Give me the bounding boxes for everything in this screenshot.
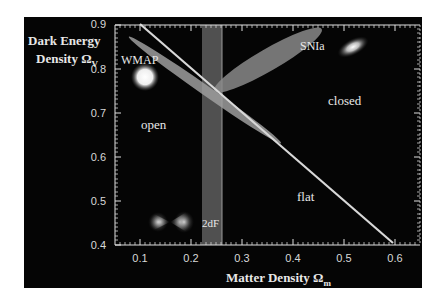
twodf-survey-icon — [148, 210, 194, 234]
y-tick-label: 0.6 — [91, 151, 106, 163]
x-tick-labels: 0.1 0.2 0.3 0.4 0.5 0.6 — [132, 252, 402, 264]
y-tick-label: 0.4 — [91, 239, 106, 251]
y-tick-label: 0.7 — [91, 107, 106, 119]
x-tick-label: 0.6 — [387, 252, 402, 264]
x-tick-label: 0.5 — [336, 252, 351, 264]
x-tick-label: 0.2 — [183, 252, 198, 264]
x-tick-label: 0.3 — [234, 252, 249, 264]
snia-ellipse — [209, 19, 327, 100]
flat-region-label: flat — [297, 189, 315, 204]
cosmology-chart: 0.1 0.2 0.3 0.4 0.5 0.6 0.9 0.8 0.7 0.6 … — [0, 0, 443, 303]
y-tick-label: 0.5 — [91, 195, 106, 207]
closed-region-label: closed — [328, 93, 362, 108]
galaxy-icon — [334, 32, 372, 62]
x-tick-label: 0.1 — [132, 252, 147, 264]
x-tick-label: 0.4 — [285, 252, 300, 264]
y-axis-title-line1: Dark Energy — [28, 33, 101, 48]
open-region-label: open — [141, 117, 167, 132]
twodf-band — [202, 25, 222, 245]
y-tick-label: 0.9 — [91, 18, 106, 30]
y-axis-title-line2: Density ΩV — [36, 51, 99, 69]
wmap-sphere-icon — [131, 63, 159, 91]
twodf-label: 2dF — [202, 217, 219, 229]
x-axis-title: Matter Density Ωm — [226, 270, 332, 288]
snia-label: SNIa — [300, 39, 325, 53]
wmap-label: WMAP — [121, 53, 159, 67]
y-tick-labels: 0.9 0.8 0.7 0.6 0.5 0.4 — [91, 18, 106, 251]
